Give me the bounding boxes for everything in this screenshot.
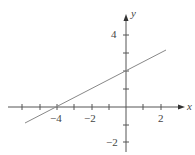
- x-axis-arrow-icon: [178, 105, 185, 110]
- y-tick-label-neg2: −2: [106, 137, 118, 148]
- x-tick-label-2: 2: [158, 113, 164, 124]
- x-axis-label: x: [187, 101, 192, 112]
- y-axis-arrow-icon: [124, 14, 129, 21]
- x-tick-label-neg2: −2: [84, 113, 96, 124]
- x-tick-label-neg4: −4: [50, 113, 62, 124]
- chart-plot: [0, 0, 195, 155]
- y-axis-label: y: [131, 8, 136, 19]
- y-tick-label-4: 4: [111, 29, 117, 40]
